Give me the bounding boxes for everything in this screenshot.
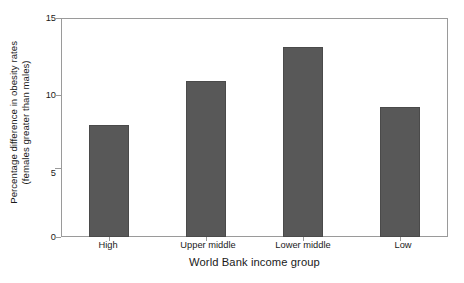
y-tick-label-10: 10 (16, 90, 56, 100)
bar-lower-middle (283, 47, 323, 237)
x-tick-label-low: Low (363, 240, 443, 250)
y-axis-title-line-2: (females greater than males) (20, 41, 32, 204)
x-axis-title: World Bank income group (61, 256, 448, 268)
bar-chart-figure: Percentage difference in obesity rates (… (0, 0, 464, 283)
y-tick-mark-0 (55, 237, 61, 238)
x-tick-mark (206, 237, 207, 241)
x-tick-mark (303, 237, 304, 241)
x-tick-label-high: High (68, 240, 148, 250)
y-tick-label-5: 5 (16, 168, 56, 178)
y-axis-title-line-1: Percentage difference in obesity rates (8, 41, 20, 204)
x-tick-mark (400, 237, 401, 241)
x-tick-label-lower-middle: Lower middle (263, 240, 343, 250)
bar-upper-middle (186, 81, 226, 237)
x-tick-mark (109, 237, 110, 241)
y-tick-label-0: 0 (16, 232, 56, 242)
bar-low (380, 107, 420, 237)
bar-high (89, 125, 129, 237)
x-tick-label-upper-middle: Upper middle (168, 240, 248, 250)
y-axis-title: Percentage difference in obesity rates (… (0, 0, 40, 245)
y-tick-label-15: 15 (16, 13, 56, 23)
